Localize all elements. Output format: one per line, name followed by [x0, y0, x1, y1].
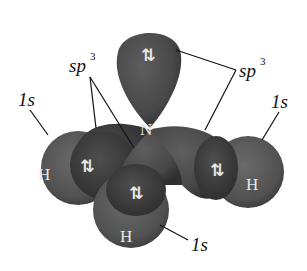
nh3-orbital-diagram: ⇅ ⇅ ⇅ ⇅ N H H H sp 3 sp 3 1s 1s 1s: [0, 0, 307, 271]
label-1s-left: 1s: [18, 89, 35, 110]
atom-label-hydrogen-right: H: [246, 175, 258, 194]
label-1s-right: 1s: [271, 91, 288, 112]
electron-pair-icon: ⇅: [210, 160, 224, 180]
electron-pair-icon: ⇅: [129, 183, 143, 203]
atom-label-hydrogen-left: H: [38, 165, 50, 184]
svg-text:sp: sp: [239, 60, 256, 81]
svg-text:3: 3: [90, 50, 96, 62]
svg-text:3: 3: [260, 55, 266, 67]
label-sp3-left: sp 3: [69, 50, 96, 76]
electron-pair-icon: ⇅: [80, 156, 94, 176]
atom-label-hydrogen-bottom: H: [120, 227, 132, 246]
electron-pair-icon: ⇅: [141, 45, 155, 65]
atom-label-nitrogen: N: [140, 120, 152, 139]
label-sp3-right: sp 3: [239, 55, 266, 81]
label-1s-bottom: 1s: [191, 234, 208, 255]
svg-text:sp: sp: [69, 55, 86, 76]
